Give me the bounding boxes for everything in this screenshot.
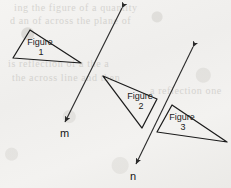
figure-1-label: Figure: [27, 37, 53, 47]
figure-3-label: Figure: [169, 112, 195, 122]
triangle-figure-2: [103, 76, 157, 128]
line-m: [65, 8, 122, 122]
triangle-figure-3: [157, 105, 227, 142]
figure-2-label: Figure: [127, 91, 153, 101]
diagram-canvas: m n Figure 1 Figure 2 Figure 3: [0, 0, 231, 188]
geometry-diagram-page: ing the figure of a quantity d an of acr…: [0, 0, 231, 188]
line-n: [136, 47, 193, 164]
figure-3-number: 3: [180, 122, 185, 132]
line-n-label: n: [130, 170, 136, 182]
figure-2-number: 2: [138, 101, 143, 111]
figure-1-number: 1: [38, 47, 43, 57]
line-m-label: m: [60, 127, 69, 139]
